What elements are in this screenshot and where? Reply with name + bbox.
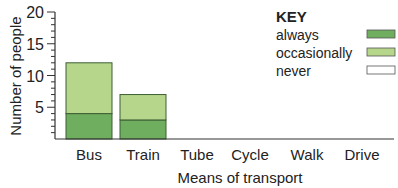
bars [66,63,166,139]
legend-swatch-never [367,66,395,74]
legend: KEY alwaysoccasionallynever [276,8,395,79]
x-tick-label: Train [126,146,160,163]
y-axis: 5101520 [26,4,55,139]
x-axis: BusTrainTubeCycleWalkDrive [55,139,394,163]
legend-title: KEY [276,8,307,25]
y-tick-label: 5 [35,99,44,116]
bar-segment-always [120,120,166,139]
legend-swatch-always [367,30,395,38]
bar-segment-always [66,114,112,139]
x-tick-label: Cycle [231,146,269,163]
legend-label: occasionally [276,45,352,61]
y-tick-label: 15 [26,36,44,53]
bar-segment-occasionally [120,95,166,120]
x-tick-label: Tube [180,146,214,163]
x-tick-label: Drive [344,146,379,163]
x-tick-label: Bus [76,146,102,163]
legend-swatch-occasionally [367,48,395,56]
y-axis-label: Number of people [7,16,24,135]
legend-label: always [276,27,319,43]
bar-segment-occasionally [66,63,112,114]
stacked-bar-chart: 5101520 BusTrainTubeCycleWalkDrive Numbe… [0,0,398,188]
x-tick-label: Walk [291,146,324,163]
y-tick-label: 10 [26,68,44,85]
x-axis-label: Means of transport [177,169,303,186]
legend-label: never [276,63,311,79]
y-tick-label: 20 [26,4,44,21]
